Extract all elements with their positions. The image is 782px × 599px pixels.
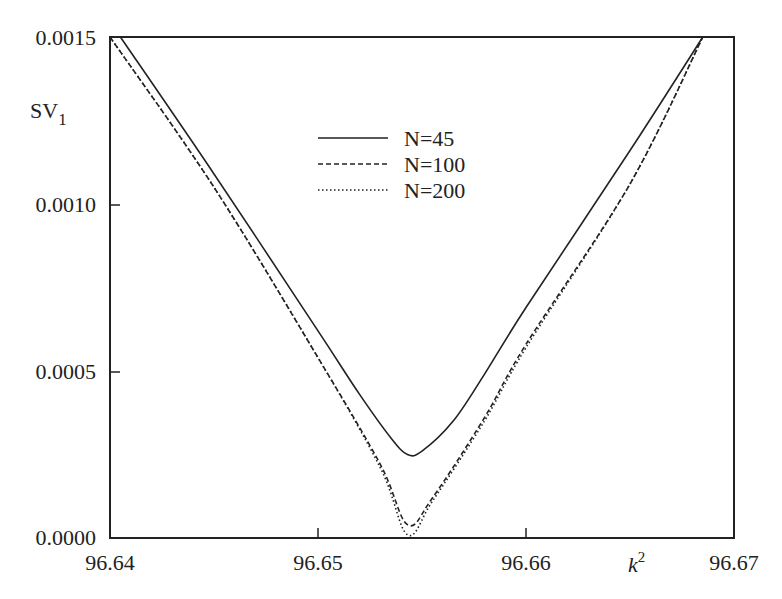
y-tick-label: 0.0010 <box>36 192 97 217</box>
legend: N=45 N=100 N=200 <box>318 126 465 203</box>
y-tick-label: 0.0015 <box>36 25 97 50</box>
x-tick-label: 96.67 <box>709 550 759 575</box>
series-layer <box>110 37 703 536</box>
legend-label: N=100 <box>404 152 465 177</box>
y-axis-label: SV1 <box>30 98 67 129</box>
series-line-n-45 <box>120 37 702 456</box>
y-tick-label: 0.0000 <box>36 525 97 550</box>
legend-label: N=200 <box>404 178 465 203</box>
x-tick-label: 96.66 <box>501 550 551 575</box>
x-axis: 96.64 96.65 96.66 96.67 <box>85 528 759 575</box>
x-tick-label: 96.65 <box>293 550 343 575</box>
legend-label: N=45 <box>404 126 454 151</box>
series-line-n-200 <box>110 37 703 536</box>
x-tick-label: 96.64 <box>85 550 135 575</box>
y-tick-label: 0.0005 <box>36 359 97 384</box>
sv1-vs-k2-chart: 0.0000 0.0005 0.0010 0.0015 96.64 96.65 … <box>0 0 782 599</box>
series-line-n-100 <box>110 37 703 526</box>
x-axis-label: k2 <box>628 549 645 577</box>
plot-frame <box>110 37 734 538</box>
